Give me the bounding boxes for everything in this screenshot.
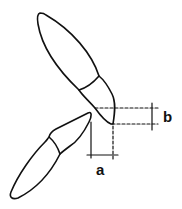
label-a: a: [96, 162, 104, 177]
dimension-a: [87, 122, 118, 160]
lower-incisor: [10, 113, 91, 199]
upper-incisor: [37, 13, 114, 124]
incisor-diagram: b a: [0, 0, 182, 209]
label-b: b: [163, 109, 172, 124]
lower-incisor-cej-line: [49, 137, 60, 154]
diagram-graphic: [0, 0, 182, 209]
upper-incisor-outline: [37, 13, 114, 124]
dimension-b: [95, 103, 158, 130]
lower-incisor-outline: [10, 113, 91, 199]
upper-incisor-cej-line: [79, 76, 99, 90]
